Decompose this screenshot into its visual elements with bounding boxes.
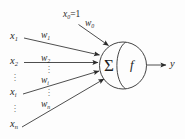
bias-input-label: x0=1 bbox=[63, 10, 80, 21]
input-ellipsis-upper: ··· bbox=[11, 73, 19, 82]
output-label: y bbox=[170, 59, 175, 70]
activation-function-symbol: f bbox=[130, 57, 134, 73]
input-label-2: x2 bbox=[10, 56, 18, 67]
input-connection-line-i bbox=[23, 71, 99, 94]
summation-symbol: Σ bbox=[104, 56, 114, 76]
input-label-i: xi bbox=[10, 87, 16, 98]
weight-ellipsis-upper: ··· bbox=[45, 65, 53, 74]
neuron-divider-arc bbox=[117, 42, 126, 89]
bias-weight-label: w0 bbox=[85, 19, 94, 30]
neuron-diagram: x0=1 w0 x1 x2 xi xn w1 w2 wi wn ··· ··· … bbox=[0, 0, 185, 139]
weight-ellipsis-lower: ··· bbox=[45, 88, 53, 97]
input-connection-line-n bbox=[22, 79, 104, 127]
input-ellipsis-lower: ··· bbox=[11, 104, 19, 113]
input-label-1: x1 bbox=[10, 31, 18, 42]
weight-label-n: wn bbox=[41, 100, 50, 111]
input-connection-line-1 bbox=[24, 38, 100, 55]
input-label-n: xn bbox=[10, 119, 18, 130]
weight-label-1: w1 bbox=[41, 31, 50, 42]
